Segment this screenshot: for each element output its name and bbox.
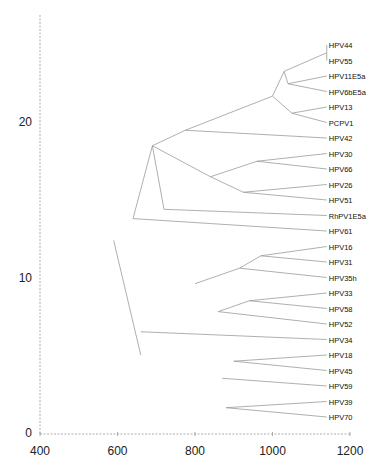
leaf-label: HPV55 — [329, 57, 353, 66]
leaf-label: HPV35h — [329, 274, 357, 283]
tree-branch — [243, 192, 326, 200]
leaf-label: HPV11E5a — [329, 72, 366, 81]
dendrogram-chart: 40060080010001200 01020 HPV44HPV55HPV11E… — [0, 0, 375, 466]
tree-branch — [195, 268, 240, 284]
tree-branch — [273, 96, 292, 113]
leaf-label: HPV30 — [329, 150, 353, 159]
leaf-label: HPV34 — [329, 336, 353, 345]
tree-branch — [133, 146, 152, 219]
tree-branch — [185, 130, 326, 138]
tree-branch — [141, 332, 327, 340]
tree-branch — [284, 71, 288, 83]
tree-branch — [284, 53, 327, 72]
leaf-label: RhPV1E5a — [329, 212, 367, 221]
leaf-label: HPV39 — [329, 398, 353, 407]
axes: 40060080010001200 01020 — [19, 15, 364, 458]
tree-branch — [261, 256, 327, 262]
tree-branch — [164, 209, 327, 215]
leaf-label: HPV70 — [329, 413, 353, 422]
tree-branch — [273, 71, 285, 96]
leaf-label: HPV13 — [329, 103, 353, 112]
x-tick-label: 1200 — [337, 444, 364, 458]
tree-branch — [218, 301, 249, 312]
tree-branch — [240, 268, 327, 277]
tree-branch — [234, 355, 327, 361]
leaf-label: HPV31 — [329, 258, 353, 267]
tree-branch — [152, 130, 185, 146]
leaf-label: HPV51 — [329, 196, 353, 205]
tree-branch — [257, 154, 327, 162]
leaf-label: HPV45 — [329, 367, 353, 376]
tree-branch — [222, 378, 327, 386]
tree-branch — [257, 161, 327, 169]
leaf-label: PCPV1 — [329, 119, 354, 128]
tree-branch — [211, 161, 258, 177]
x-tick-label: 1000 — [259, 444, 286, 458]
tree-branch — [240, 256, 261, 268]
leaf-label: HPV52 — [329, 320, 353, 329]
x-tick-label: 600 — [107, 444, 127, 458]
tree-branch — [249, 301, 327, 309]
tree-branches — [114, 45, 327, 417]
tree-branch — [133, 219, 327, 231]
tree-branch — [288, 84, 327, 92]
leaf-label: HPV26 — [329, 181, 353, 190]
tree-branch — [211, 177, 244, 193]
tree-branch — [152, 146, 164, 210]
y-tick-label: 10 — [19, 271, 33, 285]
leaf-label: HPV18 — [329, 351, 353, 360]
tree-branch — [261, 247, 327, 256]
tree-branch — [152, 146, 210, 177]
tree-branch — [243, 185, 326, 193]
leaf-label: HPV61 — [329, 227, 353, 236]
tree-branch — [226, 402, 327, 408]
leaf-label: HPV42 — [329, 134, 353, 143]
y-axis-ticks: 01020 — [19, 115, 33, 440]
x-tick-label: 400 — [30, 444, 50, 458]
tree-branch — [226, 408, 327, 417]
y-tick-label: 0 — [25, 426, 32, 440]
x-tick-label: 800 — [185, 444, 205, 458]
y-tick-label: 20 — [19, 115, 33, 129]
leaf-label: HPV6bE5a — [329, 88, 367, 97]
leaf-label: HPV16 — [329, 243, 353, 252]
leaf-label: HPV59 — [329, 382, 353, 391]
tree-branch — [185, 96, 272, 130]
tree-branch — [218, 312, 327, 324]
tree-branch — [234, 361, 327, 370]
tree-branch — [292, 107, 327, 113]
x-axis-ticks: 40060080010001200 — [30, 432, 364, 458]
leaf-label: HPV58 — [329, 305, 353, 314]
tree-branch — [249, 293, 327, 301]
tree-branch — [292, 113, 327, 122]
leaf-label: HPV66 — [329, 165, 353, 174]
leaf-label: HPV44 — [329, 41, 353, 50]
tree-branch — [288, 76, 327, 84]
tree-branch — [114, 240, 141, 355]
leaf-label: HPV33 — [329, 289, 353, 298]
leaf-labels: HPV44HPV55HPV11E5aHPV6bE5aHPV13PCPV1HPV4… — [329, 41, 367, 422]
